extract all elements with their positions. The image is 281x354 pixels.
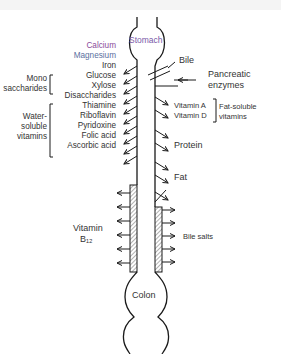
colon-outline: [123, 272, 168, 354]
protein-label: Protein: [174, 140, 203, 150]
ileum-right-wall: [155, 207, 162, 272]
list-item: Iron: [102, 61, 116, 71]
monosaccharides-label-2: saccharides: [3, 84, 47, 94]
monosaccharides-label-1: Mono: [27, 74, 47, 84]
list-item: Pyridoxine: [78, 121, 116, 131]
stomach-outline: [130, 17, 165, 207]
list-item: Thiamine: [82, 101, 116, 111]
bile-label: Bile: [179, 55, 194, 65]
water-soluble-label-2: soluble: [21, 122, 47, 132]
gi-tract-diagram: [0, 0, 281, 354]
vitamin-b12-label-2: B₁₂: [80, 234, 93, 244]
colon-label: Colon: [132, 290, 156, 300]
water-soluble-label-1: Water-: [23, 112, 47, 122]
fat-soluble-label-1: Fat-soluble: [219, 102, 257, 112]
bile-duct: [148, 62, 175, 80]
pancreatic-duct: [155, 80, 196, 86]
vitamin-b12-label-1: Vitamin: [73, 223, 103, 233]
ileum-left-wall: [130, 185, 137, 272]
vitamin-d-label: Vitamin D: [174, 111, 207, 121]
b12-arrows: [117, 193, 130, 263]
fat-label: Fat: [174, 172, 187, 182]
bile-salts-arrows: [162, 210, 175, 262]
stomach-label: Stomach: [129, 35, 163, 45]
pancreatic-label-1: Pancreatic: [208, 69, 251, 79]
list-item: Ascorbic acid: [67, 141, 116, 151]
right-absorption-arrows: [155, 97, 168, 202]
pancreatic-label-2: enzymes: [208, 80, 244, 90]
list-item: Glucose: [86, 71, 116, 81]
list-item: Disaccharides: [65, 91, 116, 101]
list-item: Magnesium: [74, 51, 116, 61]
list-item: Calcium: [86, 41, 116, 51]
list-item: Folic acid: [81, 131, 116, 141]
list-item: Riboflavin: [80, 111, 116, 121]
fat-soluble-label-2: vitamins: [219, 112, 247, 122]
list-item: Xylose: [91, 81, 116, 91]
water-soluble-label-3: vitamins: [17, 132, 47, 142]
left-absorption-arrows: [124, 66, 137, 164]
vitamin-a-label: Vitamin A: [174, 101, 206, 111]
bile-salts-label: Bile salts: [183, 232, 213, 242]
